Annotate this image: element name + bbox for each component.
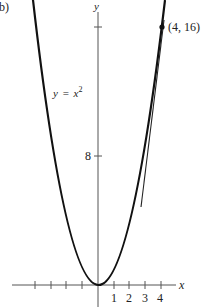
point-label: (4, 16) xyxy=(168,20,200,34)
y-tick-label-8: 8 xyxy=(85,149,91,163)
panel-label: b) xyxy=(0,0,9,14)
x-tick-label-1: 1 xyxy=(111,291,117,305)
x-tick-label-2: 2 xyxy=(126,291,132,305)
tangent-line xyxy=(141,20,164,207)
curve-label: y = x2 xyxy=(52,85,83,99)
x-tick-label-4: 4 xyxy=(157,291,163,305)
parabola-chart: b) y 8 x 1 2 3 4 (4, 16) y = x2 xyxy=(0,0,201,307)
y-axis-label: y xyxy=(93,0,99,12)
parabola-curve xyxy=(33,0,165,285)
point-marker xyxy=(159,24,164,29)
x-tick-label-3: 3 xyxy=(142,291,148,305)
x-axis-label: x xyxy=(178,278,185,292)
